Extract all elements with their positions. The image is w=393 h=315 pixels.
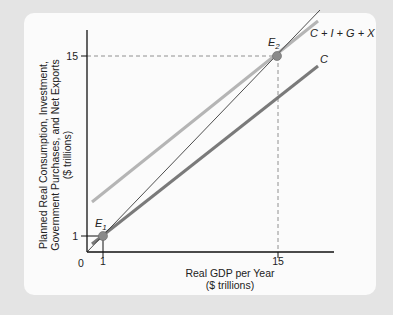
y-axis-label: Planned Real Consumption, Investment, Go…	[37, 40, 73, 270]
aggregate-line-label: C + I + G + X	[310, 27, 375, 39]
y-label-line-2: Government Purchases, and Net Exports	[49, 40, 61, 270]
aggregate-demand-line	[92, 21, 318, 202]
x-tick-label-15: 15	[272, 255, 284, 267]
forty-five-degree-line	[87, 10, 320, 252]
consumption-line-label: C	[320, 53, 328, 65]
consumption-line	[92, 66, 318, 244]
x-tick-label-0: 0	[78, 257, 84, 269]
y-label-line-3: ($ trillions)	[61, 40, 73, 270]
x-tick-label-1: 1	[100, 255, 106, 267]
e2-label: E2	[268, 36, 280, 51]
x-label-line-2: ($ trillions)	[130, 279, 330, 291]
equilibrium-point-e2	[273, 52, 282, 61]
y-tick-label-1: 1	[72, 230, 78, 242]
x-axis-label: Real GDP per Year ($ trillions)	[130, 267, 330, 291]
y-label-line-1: Planned Real Consumption, Investment,	[37, 40, 49, 270]
equilibrium-point-e1	[99, 232, 108, 241]
x-label-line-1: Real GDP per Year	[130, 267, 330, 279]
e1-label: E1	[95, 217, 107, 232]
